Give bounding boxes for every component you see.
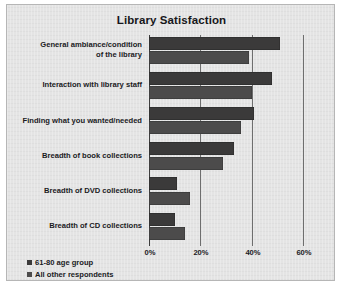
- x-tick-label-40: 40%: [233, 248, 273, 257]
- plot-area: [149, 35, 304, 246]
- category-label-2: Interaction with library staff: [6, 80, 142, 90]
- category-label-line: Breadth of DVD collections: [6, 186, 142, 196]
- legend-label-0: 61-80 age group: [35, 258, 93, 267]
- gridline-40: [252, 35, 253, 246]
- x-tick-label-60: 60%: [284, 248, 324, 257]
- legend-item-1: All other respondents: [27, 269, 113, 280]
- category-label-line: Interaction with library staff: [6, 80, 142, 90]
- category-label-line: General ambiance/condition: [6, 40, 142, 50]
- gridline-60: [303, 35, 304, 246]
- category-label-line: of the library: [6, 50, 142, 60]
- bar-2-series-1: [149, 72, 272, 85]
- x-tick-label-20: 20%: [181, 248, 221, 257]
- bar-3-series-2: [149, 121, 241, 134]
- category-label-line: Finding what you wanted/needed: [6, 116, 142, 126]
- bar-3-series-1: [149, 107, 254, 120]
- bar-1-series-1: [149, 37, 280, 50]
- bar-6-series-1: [149, 213, 175, 226]
- category-label-5: Breadth of DVD collections: [6, 186, 142, 196]
- bar-4-series-1: [149, 142, 234, 155]
- category-label-4: Breadth of book collections: [6, 151, 142, 161]
- category-label-3: Finding what you wanted/needed: [6, 116, 142, 126]
- chart-title: Library Satisfaction: [7, 14, 335, 26]
- category-label-line: Breadth of book collections: [6, 151, 142, 161]
- legend-item-0: 61-80 age group: [27, 257, 113, 268]
- chart-legend: 61-80 age group All other respondents: [27, 257, 113, 281]
- bar-1-series-2: [149, 51, 249, 64]
- legend-swatch-icon-0: [27, 260, 32, 265]
- category-label-line: Breadth of CD collections: [6, 221, 142, 231]
- figure-container: Library Satisfaction 0% 20% 40% 60% 61-8…: [0, 0, 342, 295]
- bar-5-series-2: [149, 192, 190, 205]
- bar-6-series-2: [149, 227, 185, 240]
- x-tick-label-0: 0%: [130, 248, 170, 257]
- category-label-1: General ambiance/conditionof the library: [6, 40, 142, 60]
- bar-5-series-1: [149, 177, 177, 190]
- bar-2-series-2: [149, 86, 252, 99]
- category-label-6: Breadth of CD collections: [6, 221, 142, 231]
- gridline-20: [200, 35, 201, 246]
- bar-4-series-2: [149, 157, 223, 170]
- legend-swatch-icon-1: [27, 272, 32, 277]
- legend-label-1: All other respondents: [35, 270, 113, 279]
- chart-frame: Library Satisfaction 0% 20% 40% 60% 61-8…: [6, 4, 335, 281]
- page-caption: [8, 284, 334, 293]
